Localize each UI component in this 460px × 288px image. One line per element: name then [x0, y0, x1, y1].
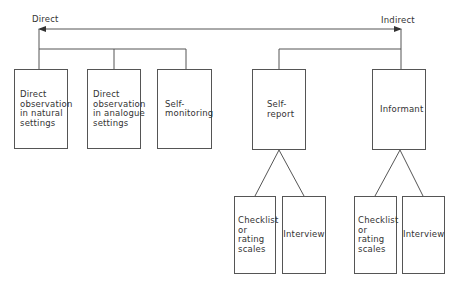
box-self-report-checklist: Checklist or rating scales — [234, 196, 276, 274]
box-informant-interview: Interview — [402, 196, 445, 274]
box-informant: Informant — [372, 69, 426, 150]
box-direct-observation-natural: Direct observation in natural settings — [14, 69, 68, 149]
box-self-report-interview: Interview — [282, 196, 326, 274]
direct-label: Direct — [32, 14, 59, 24]
box-self-monitoring: Self- monitoring — [157, 69, 212, 149]
box-direct-observation-analogue: Direct observation in analogue settings — [87, 69, 141, 149]
box-informant-checklist: Checklist or rating scales — [354, 196, 397, 274]
indirect-label: Indirect — [381, 15, 415, 25]
box-self-report: Self- report — [252, 69, 306, 150]
